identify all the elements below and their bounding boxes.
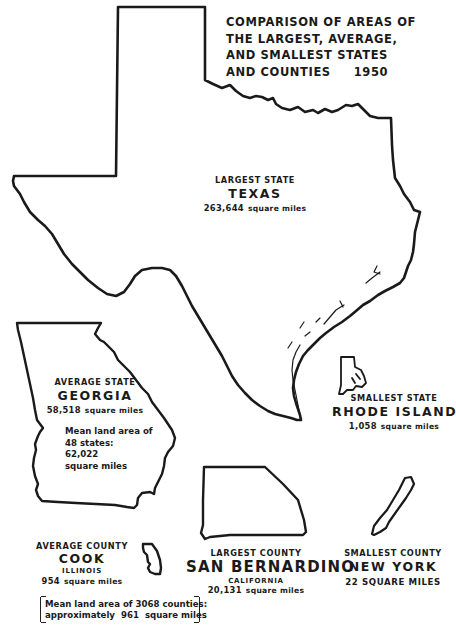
georgia-name: GEORGIA xyxy=(40,389,150,403)
texas-caption: LARGEST STATE xyxy=(190,176,320,185)
state-mean-note: Mean land area of 48 states: 62,022 squa… xyxy=(65,426,153,472)
new-york-label: SMALLEST COUNTY NEW YORK 22 SQUARE MILES xyxy=(334,549,452,588)
san-bernardino-state: CALIFORNIA xyxy=(186,577,326,585)
cook-caption: AVERAGE COUNTY xyxy=(22,542,142,551)
cook-area-unit: square miles xyxy=(64,577,122,586)
rhode-island-outline-icon xyxy=(339,357,366,394)
texas-area: 263,644square miles xyxy=(190,204,320,214)
title-line: AND COUNTIES 1950 xyxy=(226,64,416,81)
rhode-island-label: SMALLEST STATE RHODE ISLAND 1,058square … xyxy=(332,394,456,432)
rhode-island-caption: SMALLEST STATE xyxy=(332,394,456,403)
new-york-name: NEW YORK xyxy=(334,560,452,574)
texas-name: TEXAS xyxy=(190,187,320,201)
cook-area: 954square miles xyxy=(22,577,142,587)
cook-state: ILLINOIS xyxy=(22,567,142,575)
san-bernardino-outline-icon xyxy=(201,467,306,539)
note-line: Mean land area of 3068 counties: xyxy=(45,599,207,610)
county-mean-note: Mean land area of 3068 counties: approxi… xyxy=(45,599,207,621)
georgia-label: AVERAGE STATE GEORGIA 58,518square miles xyxy=(40,378,150,416)
georgia-area-unit: square miles xyxy=(85,406,143,415)
san-bernardino-label: LARGEST COUNTY SAN BERNARDINO CALIFORNIA… xyxy=(186,549,326,595)
chart-title: COMPARISON OF AREAS OF THE LARGEST, AVER… xyxy=(226,14,416,80)
georgia-area-value: 58,518 xyxy=(47,405,81,415)
cook-label: AVERAGE COUNTY COOK ILLINOIS 954square m… xyxy=(22,542,142,587)
texas-label: LARGEST STATE TEXAS 263,644square miles xyxy=(190,176,320,214)
cook-area-value: 954 xyxy=(42,576,60,586)
san-bernardino-name: SAN BERNARDINO xyxy=(186,559,326,576)
note-line: Mean land area of xyxy=(65,426,153,438)
san-bernardino-caption: LARGEST COUNTY xyxy=(186,549,326,558)
new-york-county-outline-icon xyxy=(372,477,414,535)
map-canvas xyxy=(0,0,456,629)
note-line: 62,022 xyxy=(65,449,153,461)
rhode-island-name: RHODE ISLAND xyxy=(332,405,456,419)
title-line: COMPARISON OF AREAS OF xyxy=(226,14,416,31)
georgia-caption: AVERAGE STATE xyxy=(40,378,150,387)
texas-area-value: 263,644 xyxy=(204,203,244,213)
texas-area-unit: square miles xyxy=(248,204,306,213)
title-line: AND SMALLEST STATES xyxy=(226,47,416,64)
georgia-area: 58,518square miles xyxy=(40,406,150,416)
cook-county-outline-icon xyxy=(143,544,161,574)
title-line: THE LARGEST, AVERAGE, xyxy=(226,31,416,48)
san-bernardino-area: 20,131square miles xyxy=(186,586,326,596)
texas-barrier-islands xyxy=(288,266,380,410)
rhode-island-area: 1,058square miles xyxy=(332,422,456,432)
rhode-island-area-value: 1,058 xyxy=(349,421,377,431)
note-line: approximately 961 square miles xyxy=(45,610,207,621)
rhode-island-area-unit: square miles xyxy=(381,422,439,431)
note-line: 48 states: xyxy=(65,438,153,450)
note-line: square miles xyxy=(65,461,153,473)
san-bernardino-area-value: 20,131 xyxy=(208,585,242,595)
cook-name: COOK xyxy=(22,552,142,566)
new-york-area: 22 SQUARE MILES xyxy=(334,578,452,588)
san-bernardino-area-unit: square miles xyxy=(246,586,304,595)
new-york-caption: SMALLEST COUNTY xyxy=(334,549,452,558)
